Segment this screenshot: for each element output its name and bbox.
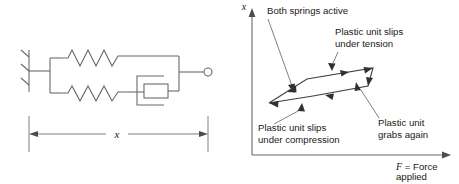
annotation-both-springs-active-text: Both springs active [267,5,348,16]
plastic-unit-icon [128,76,179,105]
annotation-grabs-again: Plastic unit grabs again [355,82,429,140]
annotation-grabs-again-line1: Plastic unit [378,117,425,128]
annotation-slips-under-tension-line2: under tension [335,38,393,49]
y-axis-label: x [241,1,247,12]
annotation-slips-under-compression: Plastic unit slips under compression [258,103,340,145]
annotation-both-springs-active: Both springs active [267,5,348,93]
upper-spring-icon [61,50,179,66]
annotation-slips-under-compression-line1: Plastic unit slips [258,122,326,133]
loop-arrow-right-descend [366,77,373,86]
lower-spring-icon [61,86,128,101]
annotation-slips-under-tension: Plastic unit slips under tension [328,26,403,71]
y-axis: x [241,1,256,155]
loop-arrow-lower-flat [325,94,334,101]
hysteresis-chart: x F = Force applied [232,0,459,184]
x-axis: F = Force applied [252,152,451,182]
fixed-support-icon [21,50,29,92]
annotation-grabs-again-line2: grabs again [378,129,428,140]
mechanical-model-diagram: x [0,0,232,184]
annotation-slips-under-compression-line2: under compression [258,134,340,145]
output-rod [179,56,212,91]
annotation-slips-under-tension-line1: Plastic unit slips [335,26,403,37]
figure-root: x x F = Force applied [0,0,459,184]
x-axis-label-line2: applied [396,171,427,182]
loop-arrow-upper-flat [340,70,349,77]
dimension-label: x [114,128,120,140]
dimension-line: x [29,116,208,152]
wall-connector-rod [29,58,61,93]
